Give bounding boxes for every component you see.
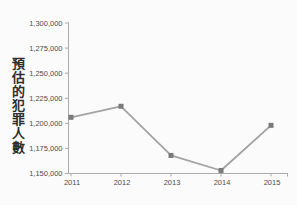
x-tick-label: 2013 — [164, 178, 181, 187]
data-point-marker — [119, 104, 124, 109]
data-line — [71, 106, 271, 170]
y-tick-label: 1,225,000 — [29, 94, 62, 103]
x-tick-label: 2014 — [214, 178, 231, 187]
y-tick-label: 1,250,000 — [29, 69, 62, 78]
y-axis-title: 預估的犯罪人數 — [11, 57, 24, 155]
screenshot-root: 預估的犯罪人數 1,300,0001,275,0001,250,0001,225… — [0, 0, 297, 205]
y-tick-label: 1,200,000 — [29, 119, 62, 128]
x-tick-label: 2011 — [64, 178, 80, 187]
data-point-marker — [69, 115, 74, 120]
plot-area: 1,300,0001,275,0001,250,0001,225,0001,20… — [0, 0, 297, 205]
y-tick-label: 1,275,000 — [29, 44, 62, 53]
data-point-marker — [269, 123, 274, 128]
y-tick-label: 1,150,000 — [29, 169, 62, 178]
x-tick-label: 2015 — [264, 178, 281, 187]
y-tick-label: 1,175,000 — [29, 144, 62, 153]
x-tick-label: 2012 — [114, 178, 131, 187]
data-point-marker — [169, 153, 174, 158]
data-point-marker — [219, 168, 224, 173]
line-chart: 預估的犯罪人數 1,300,0001,275,0001,250,0001,225… — [0, 0, 297, 205]
y-tick-label: 1,300,000 — [29, 19, 62, 28]
